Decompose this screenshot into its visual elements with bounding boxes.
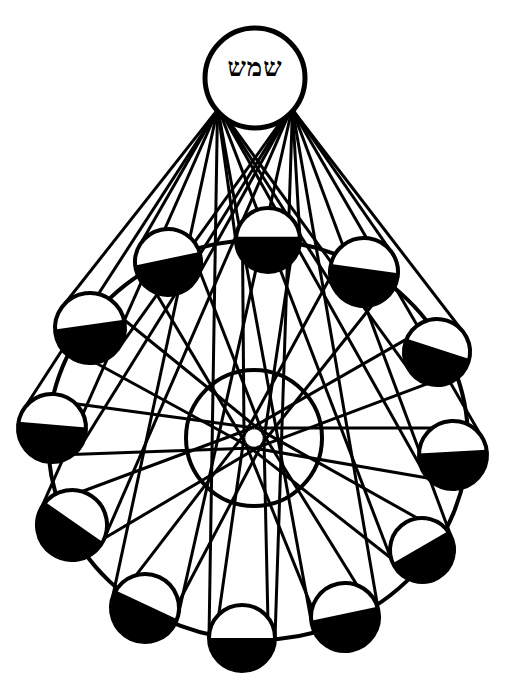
- moon-bottom-icon: [209, 605, 275, 671]
- moon-lower-left-icon: [23, 476, 120, 573]
- earth-circle: [186, 370, 322, 506]
- moon-upper-right-icon: [326, 234, 403, 311]
- moon-upper-left-icon: [129, 223, 207, 301]
- sun-label: שמש: [205, 52, 305, 83]
- lunar-phases-diagram: [0, 0, 515, 690]
- moon-far-right-icon: [417, 419, 488, 490]
- moon-bottom-left-icon: [100, 563, 190, 653]
- moon-right-icon: [395, 310, 478, 393]
- moon-left-icon: [50, 288, 129, 367]
- moon-top-icon: [236, 208, 300, 272]
